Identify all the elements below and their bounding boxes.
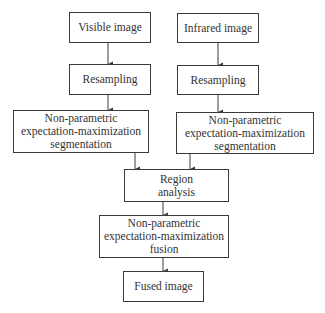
node-label-line-1: Non-parametric	[45, 112, 118, 125]
node-label-line-3: fusion	[150, 243, 179, 256]
node-resampling-right: Resampling	[177, 65, 259, 95]
node-label: Resampling	[191, 74, 246, 87]
node-fused-image: Fused image	[123, 271, 204, 302]
node-resampling-left: Resampling	[69, 64, 151, 95]
node-segmentation-right: Non-parametric expectation-maximization …	[176, 112, 314, 154]
node-label-line-1: Non-parametric	[209, 114, 282, 127]
connector-arrows	[0, 0, 325, 313]
node-infrared-image: Infrared image	[177, 13, 259, 43]
node-label-line-2: expectation-maximization	[21, 125, 141, 138]
node-label: Infrared image	[184, 22, 252, 35]
node-label: Resampling	[83, 73, 138, 86]
node-label-line-2: expectation-maximization	[104, 230, 224, 243]
node-label-line-1: Non-parametric	[128, 217, 201, 230]
node-label: Fused image	[134, 280, 192, 293]
node-label-line-3: segmentation	[214, 140, 275, 153]
node-visible-image: Visible image	[69, 12, 151, 43]
node-label-line-2: expectation-maximization	[185, 127, 305, 140]
node-label-line-3: segmentation	[50, 138, 111, 151]
node-fusion: Non-parametric expectation-maximization …	[99, 215, 229, 258]
node-label: Visible image	[78, 21, 142, 34]
node-label-line-1: Region	[160, 173, 193, 186]
node-region-analysis: Region analysis	[124, 169, 229, 202]
node-segmentation-left: Non-parametric expectation-maximization …	[13, 110, 149, 153]
node-label-line-2: analysis	[158, 186, 195, 199]
